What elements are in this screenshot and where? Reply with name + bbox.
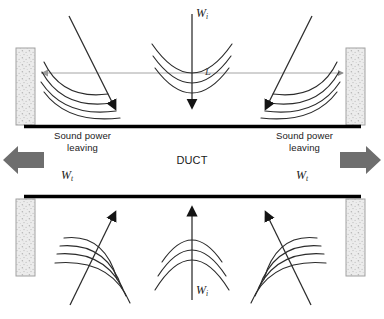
upper-left-propagation-arrow xyxy=(69,16,112,102)
sound-power-leaving-left-label: Sound power leaving xyxy=(30,130,135,154)
transmitted-power-label-left: Wt xyxy=(61,168,73,183)
duct-label: DUCT xyxy=(152,154,232,166)
lower-left-wavefronts xyxy=(55,238,130,303)
lower-right-wavefronts xyxy=(251,238,326,303)
upper-left-absorber xyxy=(16,48,35,125)
acoustic-duct-diagram: Wi L Sound power leaving Sound power lea… xyxy=(0,0,384,319)
transmitted-power-label-right: Wt xyxy=(296,168,308,183)
lower-left-absorber xyxy=(16,199,35,276)
lower-right-propagation-arrow xyxy=(269,219,311,305)
upper-right-absorber xyxy=(346,48,365,125)
incident-power-label-bottom: Wi xyxy=(196,283,208,298)
upper-right-propagation-arrow xyxy=(269,16,312,102)
duct-length-label: L xyxy=(205,66,211,77)
incident-power-label-top: Wi xyxy=(196,6,208,21)
sound-power-leaving-right-label: Sound power leaving xyxy=(252,130,357,154)
lower-right-absorber xyxy=(346,199,365,276)
upper-right-wavefronts xyxy=(261,62,340,119)
lower-left-propagation-arrow xyxy=(70,219,112,305)
upper-left-wavefronts xyxy=(41,62,120,119)
